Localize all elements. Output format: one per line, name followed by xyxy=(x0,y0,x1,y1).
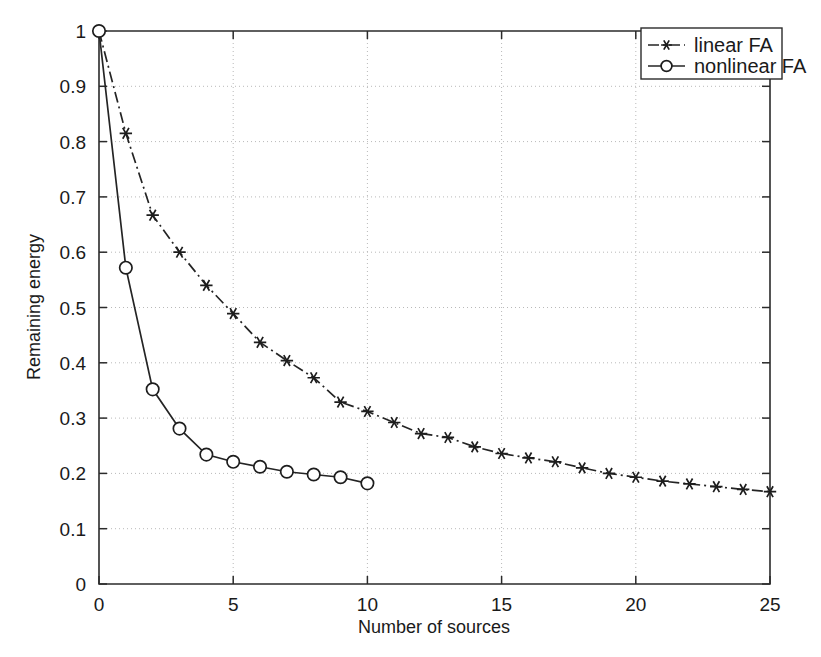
data-point-marker xyxy=(173,422,185,434)
y-tick-label: 0 xyxy=(75,574,86,595)
x-tick-label: 0 xyxy=(94,594,105,615)
data-point-marker xyxy=(308,468,320,480)
data-point-marker xyxy=(334,471,346,483)
y-tick-label: 0.2 xyxy=(60,463,86,484)
legend-label-nonlinear-fa: nonlinear FA xyxy=(694,55,807,77)
chart-svg: 00.10.20.30.40.50.60.70.80.91 0510152025… xyxy=(0,0,821,657)
data-point-marker xyxy=(227,456,239,468)
data-point-marker xyxy=(146,383,158,395)
data-point-marker xyxy=(120,261,132,273)
figure-container: 00.10.20.30.40.50.60.70.80.91 0510152025… xyxy=(0,0,821,657)
x-tick-label: 10 xyxy=(357,594,378,615)
y-tick-label: 0.8 xyxy=(60,132,86,153)
data-point-marker xyxy=(281,466,293,478)
data-point-marker xyxy=(254,461,266,473)
y-tick-label: 0.1 xyxy=(60,519,86,540)
y-tick-label: 0.3 xyxy=(60,408,86,429)
y-axis-title: Remaining energy xyxy=(24,234,44,380)
y-tick-label: 0.9 xyxy=(60,76,86,97)
y-tick-label: 0.7 xyxy=(60,187,86,208)
chart-background xyxy=(0,0,821,657)
y-tick-label: 0.5 xyxy=(60,298,86,319)
x-axis-title: Number of sources xyxy=(358,617,510,637)
x-tick-label: 5 xyxy=(228,594,239,615)
y-tick-label: 0.6 xyxy=(60,242,86,263)
x-tick-label: 25 xyxy=(759,594,780,615)
x-tick-label: 15 xyxy=(491,594,512,615)
data-point-marker xyxy=(200,448,212,460)
legend[interactable]: linear FA nonlinear FA xyxy=(641,28,807,79)
y-tick-label: 1 xyxy=(75,21,86,42)
legend-label-linear-fa: linear FA xyxy=(694,34,774,56)
data-point-marker xyxy=(93,25,105,37)
y-tick-label: 0.4 xyxy=(60,353,87,374)
data-point-marker xyxy=(361,477,373,489)
x-tick-label: 20 xyxy=(625,594,646,615)
